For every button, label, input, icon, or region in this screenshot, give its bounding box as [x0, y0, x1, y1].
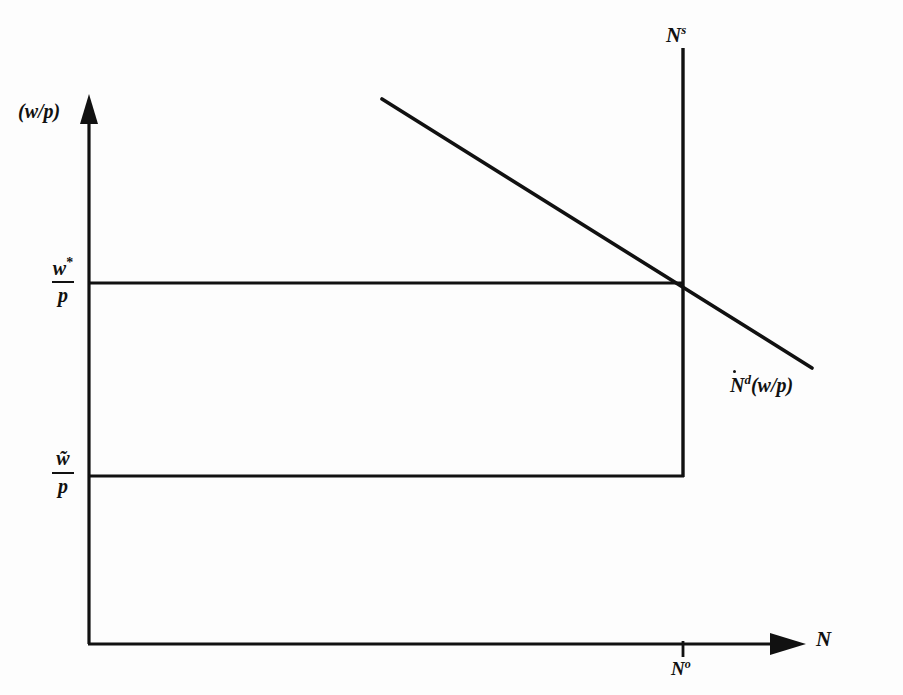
fraction-denominator: p — [48, 476, 78, 498]
x-axis-arrowhead — [770, 633, 806, 655]
fraction-numerator: w̃ — [48, 448, 78, 470]
y-tick-label-w-tilde-over-p: w̃ p — [48, 448, 78, 497]
fraction-numerator: w* — [48, 255, 78, 279]
curve-label-nd-base: N — [730, 374, 744, 396]
x-tick-label-n-o: No — [671, 658, 691, 678]
curve-label-ns-base: N — [666, 23, 681, 47]
scan-speck-dot-icon — [733, 370, 736, 373]
curve-label-labour-demand: Nd(w/p) — [730, 373, 793, 395]
fraction-bar — [52, 472, 74, 474]
x-tick-label-base: N — [671, 658, 685, 679]
curve-label-ns-superscript: s — [681, 22, 686, 37]
x-tick-label-superscript: o — [685, 657, 691, 671]
curve-label-labour-supply: Ns — [666, 23, 686, 46]
y-tick-label-w-star-over-p: w* p — [48, 255, 78, 307]
curve-label-nd-argument: (w/p) — [751, 374, 793, 396]
fraction-denominator: p — [48, 285, 78, 307]
x-axis-label: N — [816, 629, 831, 650]
fraction-numerator-text: w — [53, 257, 66, 279]
labour-market-diagram: (w/p) Ns Nd(w/p) N No w* p w̃ p — [0, 0, 903, 695]
fraction-bar — [52, 281, 74, 283]
curve-labour-demand — [382, 99, 812, 368]
y-axis-label: (w/p) — [18, 101, 60, 121]
fraction-numerator-superscript: * — [66, 255, 73, 270]
y-axis-arrowhead — [80, 94, 98, 124]
diagram-canvas — [0, 0, 903, 695]
